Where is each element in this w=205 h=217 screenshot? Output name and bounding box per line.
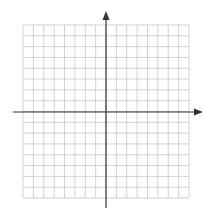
x-axis-arrow-icon	[194, 109, 203, 116]
axes	[13, 11, 203, 208]
coordinate-plane	[0, 0, 205, 217]
y-axis-arrow-icon	[103, 11, 110, 20]
